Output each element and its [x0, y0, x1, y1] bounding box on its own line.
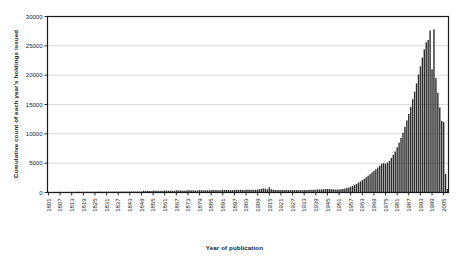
- bar: [358, 183, 359, 193]
- y-tick-label: 10000: [26, 131, 43, 137]
- x-tick-label: 1939: [313, 198, 319, 212]
- bar: [379, 166, 380, 193]
- bar: [429, 31, 430, 193]
- bar: [389, 161, 390, 193]
- bar: [427, 40, 428, 193]
- x-tick-label: 1825: [92, 198, 98, 212]
- bar: [435, 78, 436, 192]
- x-tick-label: 1813: [69, 198, 75, 212]
- x-tick-label: 1963: [359, 198, 365, 212]
- x-tick-label: 1957: [348, 198, 354, 212]
- bar: [356, 184, 357, 193]
- x-tick-label: 1801: [46, 198, 52, 212]
- x-tick-label: 1831: [104, 198, 110, 212]
- bar: [404, 127, 405, 193]
- x-tick-label: 1867: [174, 198, 180, 212]
- x-tick-label: 1987: [406, 198, 412, 212]
- x-tick-label: 1927: [290, 198, 296, 212]
- x-tick-label: 1915: [267, 198, 273, 212]
- bar: [395, 151, 396, 192]
- bar: [263, 188, 264, 192]
- bar: [400, 138, 401, 193]
- bar: [408, 114, 409, 193]
- x-tick-label: 1999: [429, 198, 435, 212]
- y-tick-label: 20000: [26, 72, 43, 78]
- bar: [269, 187, 270, 192]
- bar: [360, 181, 361, 192]
- bar: [364, 179, 365, 193]
- bar: [348, 187, 349, 192]
- bar: [369, 174, 370, 192]
- y-axis-title: Cumulative count of each year's holdings…: [12, 4, 19, 204]
- x-tick-label: 1975: [383, 198, 389, 212]
- bar: [346, 188, 347, 192]
- bar-chart-plot: 0500010000150002000025000300001801180718…: [0, 0, 469, 261]
- x-axis-title: Year of publication: [0, 244, 469, 251]
- x-tick-label: 1837: [115, 198, 121, 212]
- bar: [445, 174, 446, 193]
- bar: [420, 66, 421, 192]
- bar: [402, 133, 403, 193]
- x-tick-label: 1891: [220, 198, 226, 212]
- x-tick-label: 1879: [197, 198, 203, 212]
- bar: [391, 158, 392, 193]
- x-tick-label: 1921: [278, 198, 284, 212]
- bar: [398, 143, 399, 193]
- bar: [426, 42, 427, 192]
- x-tick-label: 1933: [301, 198, 307, 212]
- bar: [412, 99, 413, 192]
- y-tick-label: 25000: [26, 43, 43, 49]
- bar: [433, 29, 434, 192]
- bar: [375, 169, 376, 192]
- bar: [352, 186, 353, 193]
- bar: [441, 121, 442, 193]
- x-tick-label: 1945: [325, 198, 331, 212]
- bar: [362, 180, 363, 192]
- bar: [365, 177, 366, 192]
- bar: [396, 147, 397, 192]
- x-tick-label: 1951: [336, 198, 342, 212]
- bar: [439, 107, 440, 192]
- bar: [422, 58, 423, 193]
- bar: [383, 163, 384, 192]
- y-tick-label: 30000: [26, 14, 43, 20]
- bar: [406, 120, 407, 192]
- bar: [424, 49, 425, 192]
- x-tick-label: 1843: [127, 198, 133, 212]
- x-tick-label: 1855: [150, 198, 156, 212]
- x-tick-label: 1981: [394, 198, 400, 212]
- bar: [416, 83, 417, 192]
- bar: [350, 187, 351, 193]
- y-tick-label: 0: [39, 190, 43, 196]
- x-tick-label: 1993: [418, 198, 424, 212]
- x-tick-label: 1909: [255, 198, 261, 212]
- x-tick-label: 1819: [81, 198, 87, 212]
- bar: [414, 92, 415, 193]
- bar: [367, 176, 368, 193]
- bar: [410, 107, 411, 193]
- bar: [385, 164, 386, 193]
- x-tick-label: 2005: [441, 198, 447, 212]
- x-tick-label: 1969: [371, 198, 377, 212]
- x-tick-label: 1897: [232, 198, 238, 212]
- x-tick-label: 1873: [185, 198, 191, 212]
- bar: [377, 168, 378, 193]
- x-tick-label: 1849: [139, 198, 145, 212]
- bar: [437, 93, 438, 193]
- x-tick-label: 1903: [243, 198, 249, 212]
- y-tick-label: 5000: [29, 160, 43, 166]
- bar: [354, 185, 355, 193]
- x-tick-label: 1885: [208, 198, 214, 212]
- bar: [443, 122, 444, 192]
- bar: [393, 155, 394, 193]
- bar: [431, 69, 432, 192]
- x-tick-label: 1861: [162, 198, 168, 212]
- bar: [418, 75, 419, 193]
- bar: [387, 163, 388, 193]
- y-tick-label: 15000: [26, 102, 43, 108]
- bar: [373, 171, 374, 193]
- chart-container: 0500010000150002000025000300001801180718…: [0, 0, 469, 261]
- bar: [381, 164, 382, 193]
- y-axis-title-wrap: Cumulative count of each year's holdings…: [12, 4, 24, 204]
- bar: [371, 173, 372, 193]
